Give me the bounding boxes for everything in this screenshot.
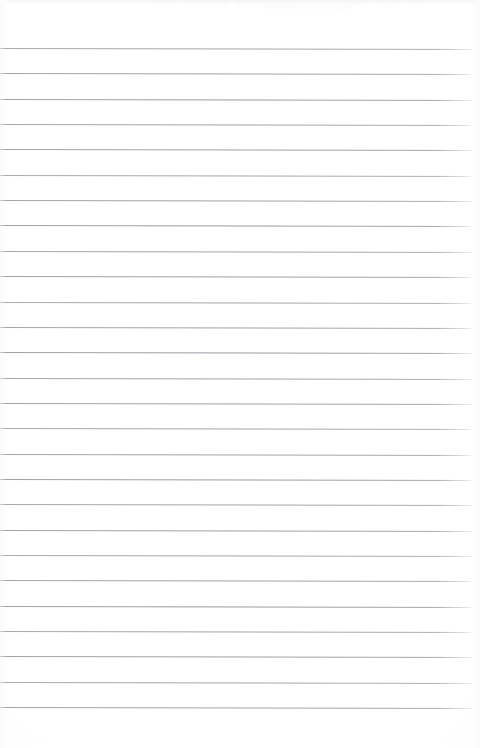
rule-line: [0, 378, 473, 380]
rule-line: [0, 606, 473, 608]
rule-line: [0, 73, 473, 75]
rule-line: [0, 555, 473, 557]
rule-line: [0, 149, 473, 151]
scan-smudge: [300, 2, 334, 6]
rule-line: [0, 707, 473, 709]
scan-smudge: [342, 1, 370, 6]
top-edge-shadow: [0, 0, 480, 4]
rule-line: [0, 682, 473, 684]
left-edge-gutter: [0, 0, 9, 748]
scanned-page: [0, 0, 480, 748]
scan-smudge-artifacts: [0, 0, 480, 14]
rule-line: [0, 175, 473, 177]
rule-line: [0, 200, 473, 202]
bottom-margin-area: [0, 710, 480, 748]
rule-line: [0, 276, 473, 278]
scan-smudge: [186, 1, 228, 6]
scan-smudge: [150, 3, 176, 6]
rule-line: [0, 327, 473, 329]
rule-line: [0, 504, 473, 506]
rule-line: [0, 656, 473, 658]
rule-line: [0, 352, 473, 354]
rule-line: [0, 225, 473, 227]
rule-line: [0, 403, 473, 405]
scan-smudge: [404, 1, 422, 5]
rule-line: [0, 631, 473, 633]
ruled-lines-layer: [0, 0, 480, 748]
rule-line: [0, 99, 473, 101]
rule-line: [0, 428, 473, 430]
rule-line: [0, 479, 473, 481]
rule-line: [0, 302, 473, 304]
rule-line: [0, 48, 473, 50]
top-margin-area: [0, 0, 480, 46]
scan-smudge: [376, 2, 398, 6]
paper-surface: [0, 0, 480, 748]
rule-line: [0, 530, 473, 532]
rule-line: [0, 124, 473, 126]
scan-smudge: [236, 0, 296, 6]
rule-line: [0, 454, 473, 456]
rule-line: [0, 251, 473, 253]
scan-smudge: [262, 6, 352, 10]
rule-line: [0, 580, 473, 582]
right-edge-gutter: [470, 0, 480, 748]
